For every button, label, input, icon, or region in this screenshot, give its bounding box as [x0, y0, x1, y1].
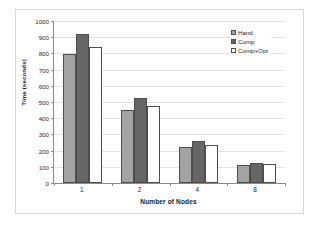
y-axis-tick-label: 100 [25, 163, 49, 170]
bar-group [179, 21, 218, 183]
y-axis-tick-labels: 01002003004005006007008009001000 [28, 21, 52, 183]
chart-legend: HandCompComp+Opt [229, 26, 271, 57]
bar [76, 34, 89, 183]
bar [250, 163, 263, 183]
legend-swatch-icon [231, 30, 236, 35]
legend-label: Comp [238, 37, 255, 46]
y-axis-tick-label: 900 [25, 34, 49, 41]
bar [237, 165, 250, 183]
legend-swatch-icon [231, 48, 236, 53]
bar [205, 145, 218, 183]
bar-group [63, 21, 102, 183]
bar [147, 106, 160, 183]
y-axis-tick-label: 800 [25, 50, 49, 57]
bar [263, 164, 276, 183]
x-axis-title: Number of Nodes [53, 198, 284, 205]
x-axis-tick-label: 2 [125, 186, 155, 193]
y-axis-tick-label: 0 [25, 180, 49, 187]
bar [179, 147, 192, 183]
bar [89, 47, 102, 183]
x-axis-tick-labels: 1248 [53, 186, 284, 198]
y-axis-tick-label: 200 [25, 147, 49, 154]
legend-label: Comp+Opt [238, 46, 268, 55]
x-axis-tick-label: 1 [67, 186, 97, 193]
bar [192, 141, 205, 183]
legend-item: Hand [231, 28, 268, 37]
bar [121, 110, 134, 183]
legend-label: Hand [238, 28, 253, 37]
y-axis-tick-label: 700 [25, 66, 49, 73]
x-axis-tick-mark [285, 183, 286, 186]
legend-swatch-icon [231, 39, 236, 44]
bar-group [121, 21, 160, 183]
y-axis-tick-label: 500 [25, 99, 49, 106]
legend-item: Comp [231, 37, 268, 46]
y-axis-tick-label: 600 [25, 82, 49, 89]
y-axis-tick-label: 400 [25, 115, 49, 122]
y-axis-tick-label: 1000 [25, 18, 49, 25]
x-axis-tick-label: 8 [240, 186, 270, 193]
x-axis-tick-label: 4 [182, 186, 212, 193]
bar [63, 54, 76, 183]
bar-chart-figure: Time (seconds) 0100200300400500600700800… [0, 0, 318, 226]
bar [134, 98, 147, 183]
y-axis-tick-label: 300 [25, 131, 49, 138]
legend-item: Comp+Opt [231, 46, 268, 55]
